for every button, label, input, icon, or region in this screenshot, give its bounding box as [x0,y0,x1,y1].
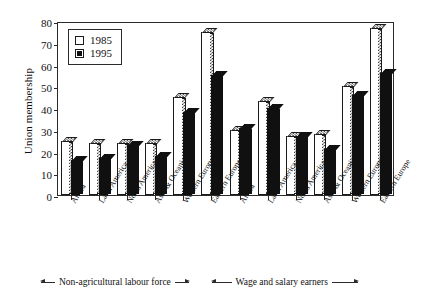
y-tick-label-80: 80 [41,18,52,29]
left-arrow-icon [41,282,55,283]
y-tick-0 [54,197,58,198]
y-tick-label-70: 70 [41,39,52,50]
legend-item-1995: 1995 [75,48,112,59]
right-arrow-icon [175,282,189,283]
bar-1995-11 [380,73,389,195]
bar-1995-10 [352,95,361,195]
bar-side-face [388,74,392,194]
y-tick-label-40: 40 [41,105,52,116]
y-tick-label-30: 30 [41,126,52,137]
y-axis-title: Union membership [22,36,34,186]
legend-item-1985: 1985 [75,35,112,46]
y-tick-label-60: 60 [41,61,52,72]
right-arrow-icon-2 [332,282,358,283]
y-tick-label-20: 20 [41,148,52,159]
legend-label-1995: 1995 [90,48,112,59]
bar-1985-1 [89,143,98,195]
annotation-label-right: Wage and salary earners [236,277,328,287]
bar-1985-0 [61,141,70,195]
chart-legend: 1985 1995 [68,29,122,65]
legend-label-1985: 1985 [90,35,112,46]
bar-1985-7 [258,101,267,195]
legend-swatch-1985-icon [75,36,84,45]
legend-swatch-1995-icon [75,49,84,58]
bar-1995-7 [267,108,276,195]
y-tick-label-0: 0 [47,192,53,203]
annotation-label-left: Non-agricultural labour force [59,277,171,287]
y-tick-label-50: 50 [41,83,52,94]
annotation-band-non-agricultural: Non-agricultural labour force [41,277,189,287]
annotation-band-wage-salary: Wage and salary earners [212,277,358,287]
left-arrow-icon-2 [212,282,232,283]
union-membership-bar-chart: Union membership 01020304050607080 1985 … [0,0,423,295]
y-tick-label-10: 10 [41,170,52,181]
bar-1995-5 [211,75,220,195]
